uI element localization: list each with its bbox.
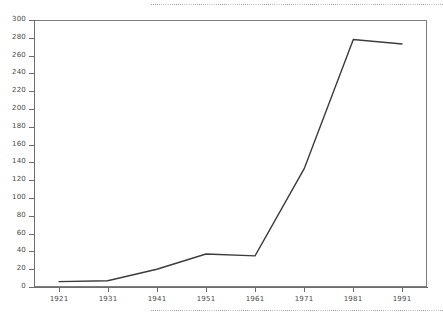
x-axis-tick-label: 1951 [186, 295, 226, 303]
y-axis-tick-label: 20 [0, 265, 26, 272]
y-axis-tick [29, 234, 34, 235]
x-axis-tick-label: 1961 [235, 295, 275, 303]
x-axis-tick [255, 288, 256, 292]
x-axis-line [34, 287, 428, 288]
y-axis-tick [29, 127, 34, 128]
x-axis-tick [304, 288, 305, 292]
y-axis-tick-label: 140 [0, 158, 26, 165]
y-axis-tick-label: 0 [0, 283, 26, 290]
y-axis-tick [29, 162, 34, 163]
dotted-rule-bottom [151, 309, 443, 311]
x-axis-tick [59, 288, 60, 292]
y-axis-tick-label: 260 [0, 52, 26, 59]
y-axis-tick-label: 240 [0, 69, 26, 76]
y-axis-tick-label: 300 [0, 16, 26, 23]
y-axis-tick [29, 73, 34, 74]
y-axis-tick-label: 200 [0, 105, 26, 112]
y-axis-tick [29, 20, 34, 21]
x-axis-tick [108, 288, 109, 292]
plot-frame [34, 20, 427, 287]
y-axis-tick-label: 80 [0, 212, 26, 219]
y-axis-tick [29, 38, 34, 39]
chart-page: 0204060801001201401601802002202402602803… [0, 0, 443, 317]
y-axis-tick-label: 280 [0, 34, 26, 41]
y-axis-tick-label: 120 [0, 176, 26, 183]
x-axis-tick [157, 288, 158, 292]
y-axis-tick [29, 56, 34, 57]
y-axis-tick-label: 40 [0, 247, 26, 254]
dotted-rule-top [151, 3, 443, 5]
y-axis-tick [29, 180, 34, 181]
y-axis-tick [29, 216, 34, 217]
y-axis-tick [29, 91, 34, 92]
y-axis-tick [29, 269, 34, 270]
x-axis-tick-label: 1941 [137, 295, 177, 303]
x-axis-tick [353, 288, 354, 292]
y-axis-tick-label: 60 [0, 230, 26, 237]
x-axis-tick-label: 1991 [382, 295, 422, 303]
x-axis-tick-label: 1981 [333, 295, 373, 303]
y-axis-tick-label: 180 [0, 123, 26, 130]
y-axis-tick-label: 100 [0, 194, 26, 201]
y-axis-tick-label: 160 [0, 141, 26, 148]
x-axis-tick-label: 1921 [39, 295, 79, 303]
x-axis-tick-label: 1971 [284, 295, 324, 303]
y-axis-tick [29, 287, 34, 288]
y-axis-tick [29, 109, 34, 110]
y-axis-tick [29, 145, 34, 146]
y-axis-line [34, 20, 35, 288]
y-axis-tick [29, 198, 34, 199]
x-axis-tick-label: 1931 [88, 295, 128, 303]
x-axis-tick [206, 288, 207, 292]
y-axis-tick [29, 251, 34, 252]
x-axis-tick [402, 288, 403, 292]
y-axis-tick-label: 220 [0, 87, 26, 94]
